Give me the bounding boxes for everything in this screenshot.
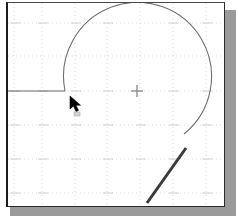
grid-horizontal-lines [8,23,225,193]
circular-arc[interactable] [64,3,212,134]
grid-intersection-ticks [10,23,212,193]
arrow-cursor-glyph [70,96,81,112]
arrow-cursor [69,95,85,117]
grid-vertical-lines [14,3,206,207]
center-crosshair-marker [131,85,143,97]
cursor-snap-badge [74,112,80,116]
diagonal-line[interactable] [147,148,186,203]
grid-layer [8,3,225,207]
drawing-canvas[interactable] [6,2,225,207]
cad-drawing-window [0,0,238,216]
